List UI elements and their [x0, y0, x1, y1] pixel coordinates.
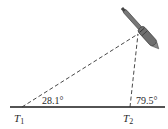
angle-label-t2: 79.5°	[136, 95, 158, 106]
point-label-t1: T1	[14, 112, 24, 126]
sight-line-t1	[22, 34, 138, 107]
angle-label-t1: 28.1°	[42, 95, 64, 106]
rocket-icon	[119, 5, 162, 51]
point-label-t2: T2	[123, 112, 133, 126]
triangulation-diagram: 28.1° 79.5° T1 T2	[0, 0, 168, 129]
